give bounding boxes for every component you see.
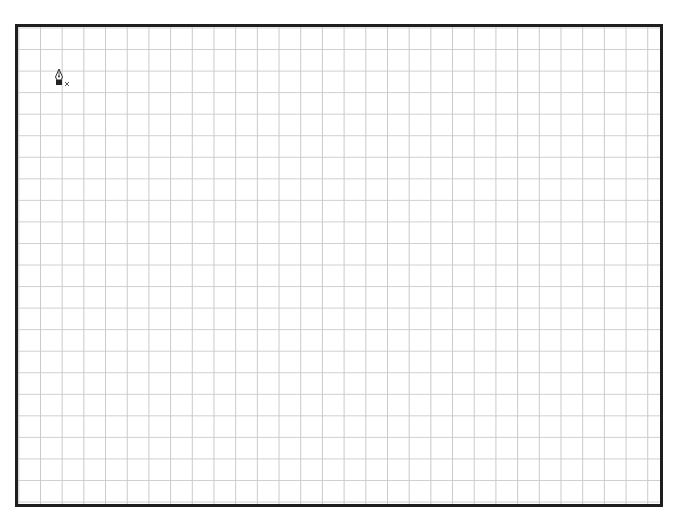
artboard-grid[interactable]: [15, 24, 663, 507]
drawing-canvas[interactable]: [0, 0, 679, 522]
pen-tool-cursor-icon: [53, 68, 73, 90]
new-path-x-icon: [65, 82, 69, 86]
